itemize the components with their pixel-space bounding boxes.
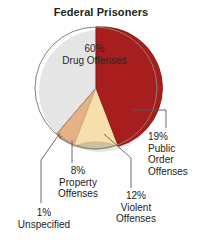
unspecified-percent: 1% bbox=[2, 207, 86, 219]
drug-offenses-percent: 60% bbox=[42, 43, 147, 55]
violent-percent: 12% bbox=[103, 190, 169, 202]
violent-name-line-2: Offenses bbox=[103, 213, 169, 225]
chart-page: Federal Prisoners 60% Drug Offenses 19% … bbox=[0, 0, 202, 252]
unspecified-name-line-1: Unspecified bbox=[2, 219, 86, 231]
property-name-line-1: Property bbox=[47, 177, 109, 189]
callout-label-unspecified: 1% Unspecified bbox=[2, 207, 86, 230]
public-order-name-line-3: Offenses bbox=[148, 166, 188, 178]
property-percent: 8% bbox=[47, 165, 109, 177]
callout-label-property: 8% Property Offenses bbox=[47, 165, 109, 200]
public-order-name-line-1: Public bbox=[148, 143, 188, 155]
slice-label-drug-offenses: 60% Drug Offenses bbox=[42, 43, 147, 67]
public-order-percent: 19% bbox=[148, 131, 188, 143]
drug-offenses-name: Drug Offenses bbox=[42, 55, 147, 67]
public-order-name-line-2: Order bbox=[148, 154, 188, 166]
callout-label-violent: 12% Violent Offenses bbox=[103, 190, 169, 225]
callout-label-public-order: 19% Public Order Offenses bbox=[148, 131, 188, 177]
property-name-line-2: Offenses bbox=[47, 188, 109, 200]
violent-name-line-1: Violent bbox=[103, 202, 169, 214]
